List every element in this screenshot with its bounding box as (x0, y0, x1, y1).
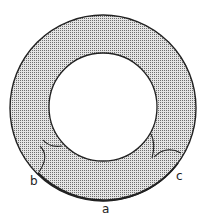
label-a: a (102, 202, 109, 216)
inner-circle (49, 53, 157, 161)
label-c: c (176, 169, 183, 183)
ring-diagram: b c a (0, 0, 209, 222)
label-b: b (30, 174, 38, 188)
